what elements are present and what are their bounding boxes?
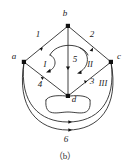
vertex-label-c: c (117, 51, 121, 61)
graph-diagram: a b c d 1 2 3 4 5 6 I II III （b） (0, 0, 130, 164)
face-separator-arc (50, 45, 88, 55)
edge-label-2: 2 (90, 29, 95, 39)
face-I-rotation-arc (49, 55, 55, 71)
vertex-c-dot[interactable] (109, 60, 113, 64)
edge-label-5: 5 (73, 54, 78, 64)
face-label-II: II (86, 59, 94, 69)
vertex-b-dot[interactable] (66, 24, 70, 28)
vertex-label-b: b (63, 8, 68, 18)
figure-container: a b c d 1 2 3 4 5 6 I II III （b） (0, 0, 130, 164)
inner-boundary-arc-arrowhead (68, 120, 72, 123)
edge-5-arrowhead (66, 67, 70, 70)
vertex-label-a: a (12, 51, 17, 61)
vertex-a-dot[interactable] (22, 60, 26, 64)
edge-label-6: 6 (64, 134, 69, 144)
edge-6-arrowhead (68, 128, 72, 131)
d-self-loop-path (46, 100, 90, 113)
edge-label-1: 1 (36, 29, 41, 39)
d-loop-left-stub (46, 96, 66, 100)
vertex-label-d: d (72, 94, 77, 104)
edge-1-path (24, 26, 68, 62)
edge-2-arrowhead (90, 48, 93, 52)
face-label-I: I (43, 59, 48, 69)
vertex-d-dot[interactable] (66, 94, 70, 98)
face-I-rotation-arrowhead (46, 69, 51, 73)
face-label-III: III (98, 78, 109, 88)
edge-label-3: 3 (89, 76, 95, 86)
figure-caption: （b） (54, 151, 77, 161)
edge-label-4: 4 (38, 79, 43, 89)
face-II-rotation-arrowhead (77, 70, 82, 74)
